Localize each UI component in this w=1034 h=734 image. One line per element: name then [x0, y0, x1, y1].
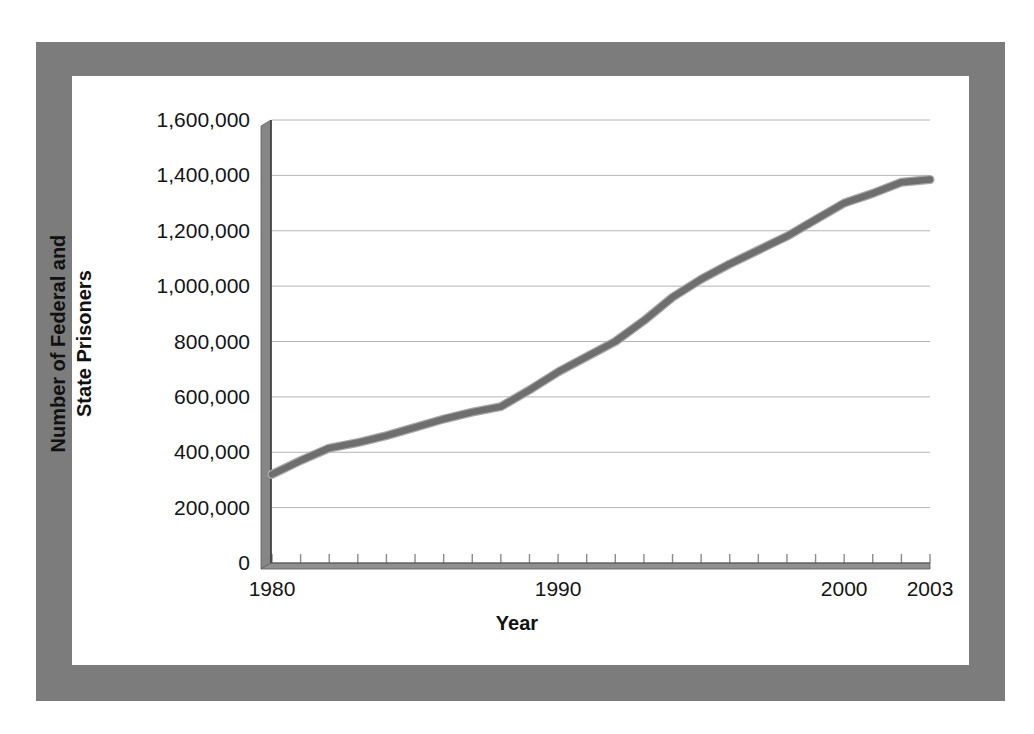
x-axis-tick-label: 1990: [535, 578, 582, 599]
x-axis-tick-label: 1980: [249, 578, 296, 599]
x-axis-tick-label: 2000: [821, 578, 868, 599]
x-axis-tick-label: 2003: [907, 578, 954, 599]
x-axis-ticks: [272, 554, 930, 563]
y-axis-title: Number of Federal and State Prisoners: [46, 154, 97, 534]
y-axis-tick-label: 200,000: [174, 497, 250, 518]
y-axis-title-line-1: Number of Federal and: [46, 154, 72, 534]
y-axis-tick-label: 1,600,000: [157, 109, 250, 130]
gridlines: [272, 120, 930, 508]
x-axis-title: Year: [0, 612, 1034, 635]
y-axis-tick-label: 1,000,000: [157, 275, 250, 296]
series-line-0: [272, 180, 930, 475]
y-axis-tick-label: 1,200,000: [157, 220, 250, 241]
y-axis-tick-label: 400,000: [174, 441, 250, 462]
y-axis-wall: [261, 120, 271, 569]
y-axis-tick-label: 600,000: [174, 386, 250, 407]
x-axis-floor: [261, 563, 930, 569]
x-axis-tick-labels: 1980199020002003: [0, 578, 1034, 612]
y-axis-tick-label: 0: [238, 552, 250, 573]
axis-lines: [261, 120, 930, 569]
y-axis-title-line-2: State Prisoners: [72, 154, 98, 534]
data-series-line: [272, 180, 930, 475]
series-line-shadow-0: [272, 180, 930, 475]
y-axis-tick-label: 800,000: [174, 331, 250, 352]
y-axis-tick-label: 1,400,000: [157, 164, 250, 185]
